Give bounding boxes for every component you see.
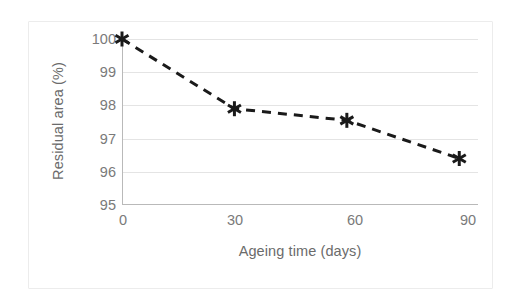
x-tick-label: 30 xyxy=(205,213,265,228)
series-line-residual-area xyxy=(122,39,459,159)
plot-area xyxy=(122,39,478,205)
x-tick-label: 0 xyxy=(93,213,153,228)
chart-figure: Residual area (%) Ageing time (days) 100… xyxy=(0,0,521,308)
data-series-layer xyxy=(122,39,478,205)
x-tick-label: 60 xyxy=(325,213,385,228)
x-tick-label: 90 xyxy=(438,213,498,228)
series-markers xyxy=(116,32,466,167)
